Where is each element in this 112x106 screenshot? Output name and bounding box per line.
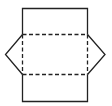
prism-net-diagram xyxy=(0,0,112,106)
right-triangle-flap xyxy=(88,35,106,75)
left-triangle-flap xyxy=(6,35,23,75)
bottom-panel-outline xyxy=(23,75,88,102)
top-panel-outline xyxy=(23,9,88,35)
diagram-svg xyxy=(0,0,112,106)
